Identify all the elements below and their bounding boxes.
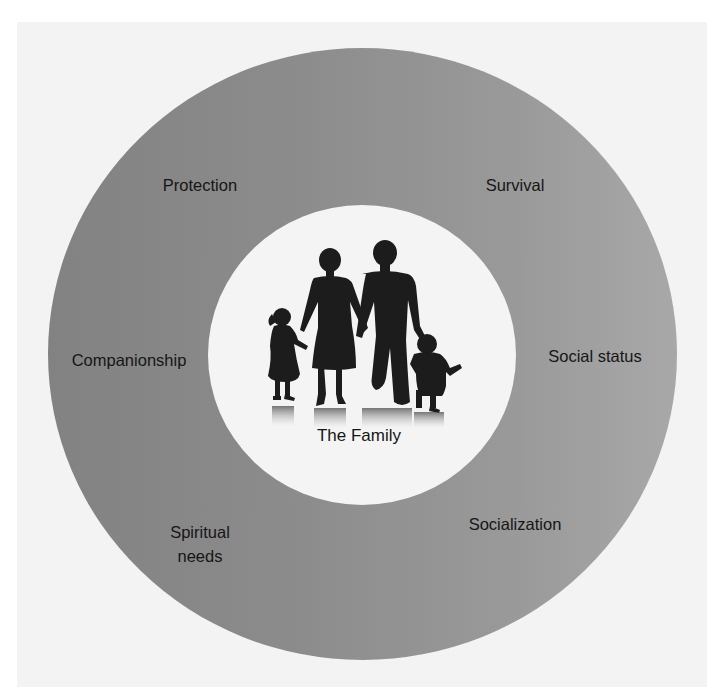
ring-label-protection: Protection [150, 175, 250, 195]
ring-label-socialization: Socialization [450, 514, 580, 534]
ring-label-spiritual-needs-line1: Spiritual [155, 522, 245, 542]
family-silhouette-icon [258, 240, 468, 430]
ring-label-social-status: Social status [530, 346, 660, 366]
ring-label-companionship: Companionship [52, 350, 206, 370]
ring-label-spiritual-needs-line2: needs [155, 546, 245, 566]
center-label-the-family: The Family [306, 426, 412, 446]
ring-label-survival: Survival [470, 175, 560, 195]
